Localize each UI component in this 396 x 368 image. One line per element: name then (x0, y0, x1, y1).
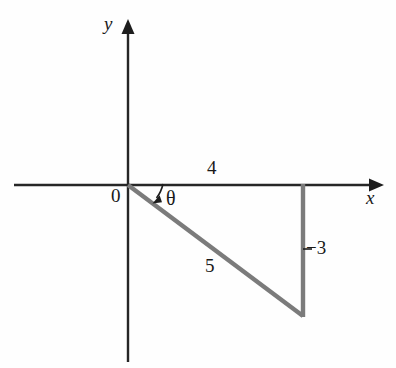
hypotenuse-segment (128, 185, 303, 316)
y-axis-label: y (104, 14, 112, 33)
origin-label: 0 (111, 186, 121, 205)
x-axis-label: x (366, 188, 374, 207)
trig-diagram-figure: y x 0 4 5 −3 θ (0, 0, 396, 368)
theta-angle-label: θ (166, 188, 176, 208)
diagram-canvas (0, 0, 396, 368)
hypotenuse-label: 5 (205, 256, 215, 275)
adjacent-side-label: 4 (207, 158, 217, 177)
y-axis-arrowhead-icon (122, 19, 135, 34)
opposite-side-label: −3 (306, 238, 326, 257)
